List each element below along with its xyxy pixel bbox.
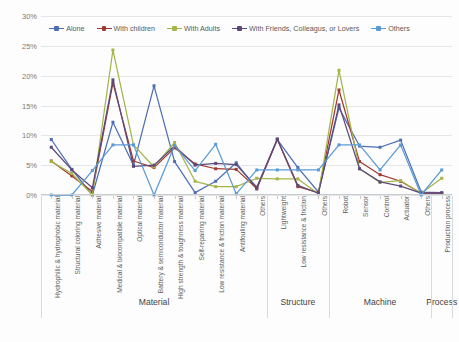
- data-point: [111, 78, 114, 81]
- data-point: [255, 177, 258, 180]
- legend-label: With Adults: [184, 24, 220, 33]
- data-point: [194, 164, 197, 167]
- data-point: [296, 184, 299, 187]
- data-point: [153, 164, 156, 167]
- x-axis-tick-label: Antifouling material: [239, 196, 246, 252]
- series-3: [50, 49, 443, 197]
- y-axis-tick-label: 10%: [22, 131, 37, 140]
- y-axis-labels: 0%5%10%15%20%25%30%: [0, 16, 41, 195]
- data-point: [235, 185, 238, 188]
- data-point: [379, 180, 382, 183]
- legend-item-5[interactable]: Others: [371, 24, 410, 33]
- legend-swatch-icon: [232, 25, 247, 32]
- y-axis-tick-label: 25%: [22, 41, 37, 50]
- data-point: [337, 103, 340, 106]
- data-point: [358, 167, 361, 170]
- group-separator: [431, 196, 432, 318]
- group-separator: [267, 196, 268, 318]
- data-point: [399, 143, 402, 146]
- data-point: [153, 84, 156, 87]
- group-separator: [452, 196, 453, 318]
- x-axis-tick-label: Hydrophilic & hydrophobic material: [54, 196, 61, 298]
- x-axis-tick: [133, 196, 134, 199]
- legend-swatch-icon: [371, 25, 386, 32]
- x-axis-tick-label: Optical material: [136, 196, 143, 242]
- x-axis-labels: Hydrophilic & hydrophobic materialStruct…: [41, 196, 452, 296]
- x-axis-tick-label: Lightweight: [280, 196, 287, 229]
- data-point: [399, 185, 402, 188]
- data-point: [194, 169, 197, 172]
- x-axis-group-band: MaterialStructureMachineProcess: [41, 296, 452, 318]
- x-axis-tick-label: Production process: [444, 196, 451, 252]
- data-point: [379, 173, 382, 176]
- data-point: [235, 168, 238, 171]
- data-point: [235, 163, 238, 166]
- x-axis-tick-label: Low resistance & friction: [300, 196, 307, 267]
- x-axis-tick: [236, 196, 237, 199]
- data-point: [70, 172, 73, 175]
- data-point: [399, 139, 402, 142]
- x-axis-tick: [154, 196, 155, 199]
- y-axis-tick-label: 30%: [22, 12, 37, 21]
- data-point: [91, 169, 94, 172]
- data-point: [276, 168, 279, 171]
- data-point: [173, 160, 176, 163]
- legend-item-4[interactable]: With Friends, Colleagus, or Lovers: [232, 24, 359, 33]
- data-point: [337, 143, 340, 146]
- x-axis-group-label: Material: [41, 296, 267, 318]
- data-point: [337, 69, 340, 72]
- x-axis-tick-label: Sensor: [362, 196, 369, 217]
- x-axis-tick: [216, 196, 217, 199]
- data-point: [173, 141, 176, 144]
- data-point: [358, 143, 361, 146]
- legend-item-3[interactable]: With Adults: [167, 24, 220, 33]
- x-axis-tick-label: Self-repairing material: [198, 196, 205, 261]
- data-point: [111, 49, 114, 52]
- legend-swatch-icon: [49, 25, 64, 32]
- data-point: [337, 88, 340, 91]
- data-point: [50, 138, 53, 141]
- legend-item-2[interactable]: With children: [97, 24, 156, 33]
- x-axis-tick-label: Medical & biocompatible material: [116, 196, 123, 293]
- data-point: [379, 168, 382, 171]
- data-point: [111, 121, 114, 124]
- legend-item-1[interactable]: Alone: [49, 24, 84, 33]
- data-point: [50, 160, 53, 163]
- legend-label: With Friends, Colleagus, or Lovers: [249, 24, 359, 33]
- x-axis-tick-label: Others: [424, 196, 431, 216]
- x-axis-tick: [401, 196, 402, 199]
- data-point: [214, 143, 217, 146]
- series-lines: [41, 16, 452, 195]
- x-axis-tick-label: Control: [383, 196, 390, 217]
- data-point: [70, 168, 73, 171]
- legend-swatch-icon: [167, 25, 182, 32]
- y-axis-tick-label: 5%: [26, 161, 37, 170]
- data-point: [214, 162, 217, 165]
- data-point: [50, 146, 53, 149]
- x-axis-tick-label: Others: [259, 196, 266, 216]
- data-point: [194, 180, 197, 183]
- y-axis-tick-label: 15%: [22, 101, 37, 110]
- x-axis-tick-label: Structural coloring material: [74, 196, 81, 274]
- data-point: [173, 144, 176, 147]
- x-axis-tick: [175, 196, 176, 199]
- x-axis-tick-label: High strength & toughness material: [177, 196, 184, 299]
- data-point: [276, 177, 279, 180]
- data-point: [296, 177, 299, 180]
- y-axis-tick-label: 20%: [22, 71, 37, 80]
- data-point: [132, 143, 135, 146]
- x-axis-line: [41, 194, 452, 195]
- x-axis-tick: [72, 196, 73, 199]
- data-point: [132, 165, 135, 168]
- legend-swatch-icon: [97, 25, 112, 32]
- data-point: [296, 168, 299, 171]
- chart-legend: AloneWith childrenWith AdultsWith Friend…: [0, 24, 459, 33]
- x-axis-tick-label: Others: [321, 196, 328, 216]
- x-axis-tick: [257, 196, 258, 199]
- x-axis-tick: [380, 196, 381, 199]
- chart-container: 0%5%10%15%20%25%30% AloneWith childrenWi…: [0, 0, 459, 342]
- data-point: [214, 185, 217, 188]
- series-line: [51, 50, 441, 195]
- y-axis-tick-label: 0%: [26, 191, 37, 200]
- data-point: [379, 146, 382, 149]
